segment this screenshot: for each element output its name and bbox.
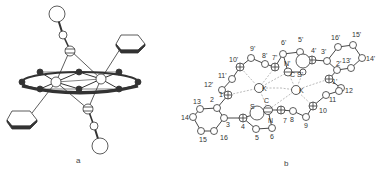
phenyl-ring-icon [7, 111, 37, 129]
atom-label: 10 [319, 107, 327, 114]
atom-label: 1 [219, 91, 223, 98]
atom-label: 12 [345, 87, 353, 94]
atom-label: 3' [321, 48, 326, 55]
atom-label: 16 [220, 134, 228, 141]
atom-label: 12' [204, 81, 213, 88]
atom-label: 9 [304, 122, 308, 129]
atom-label: 6 [270, 133, 274, 140]
atom-label: 14 [181, 114, 189, 121]
atom-label: 13' [342, 57, 351, 64]
atom-label: N' [284, 60, 290, 67]
atom-label: 16' [331, 34, 340, 41]
atom-label: 2' [336, 60, 341, 67]
atom-label: 5' [298, 36, 303, 43]
atom-label: C [264, 97, 269, 104]
atom-label: 15 [199, 136, 207, 143]
atom-label: S [250, 103, 255, 110]
phenyl-ring-icon [116, 35, 145, 53]
panel-a-atoms [19, 6, 141, 154]
panel-b-caption: b [284, 159, 289, 168]
atom-label: 3 [226, 121, 230, 128]
atom-label: C [290, 71, 295, 78]
atom-label: 11 [329, 96, 336, 103]
atom-label: 11' [218, 72, 227, 79]
atom-label: 10' [229, 56, 238, 63]
atom-label: 4 [241, 123, 245, 130]
atom-label: 15' [352, 31, 361, 38]
atom-label: K [299, 87, 304, 94]
atom-label: 5 [255, 134, 259, 141]
atom-label: 2 [210, 96, 214, 103]
panel-a-caption: a [76, 156, 81, 165]
atom-label: 9' [250, 45, 255, 52]
panel-b-labels: 10' 9' 8' 7' 6' 5' 4' 3' 16' 15' 14' 13'… [181, 31, 375, 143]
atom-label: 7' [272, 54, 277, 61]
atom-label: N [268, 117, 273, 124]
atom-label: 8 [290, 116, 294, 123]
atom-label: 4' [311, 47, 316, 54]
atom-label: S' [297, 71, 303, 78]
atom-label: 7 [283, 117, 287, 124]
figure-canvas: a [0, 0, 386, 174]
atom-label: 6' [281, 39, 286, 46]
atom-label: 1' [332, 78, 337, 85]
atom-label: 13 [193, 98, 201, 105]
atom-label: K [262, 85, 267, 92]
atom-label: 8' [262, 52, 267, 59]
atom-label: 14' [366, 55, 375, 62]
